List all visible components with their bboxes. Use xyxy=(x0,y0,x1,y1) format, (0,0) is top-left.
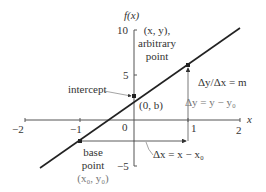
intercept-leader xyxy=(104,91,131,96)
linear-function-diagram: x −2 −1 0 1 2 f(x) 10 5 −5 (x, y), arbit… xyxy=(0,0,266,192)
arbitrary-point-label: arbitrary xyxy=(138,37,176,49)
arbitrary-point-coords: (x, y), xyxy=(144,24,171,37)
slope-formula: Δy/Δx = m xyxy=(198,76,247,88)
x-tick-minus1: −1 xyxy=(70,123,82,135)
x-axis-label: x xyxy=(246,113,252,125)
delta-y-formula: Δy = y − y₀ xyxy=(185,96,236,108)
base-point-marker xyxy=(78,139,82,143)
x-tick-minus2: −2 xyxy=(12,123,24,135)
base-point-label: base xyxy=(83,146,103,158)
x-tick-2: 2 xyxy=(236,124,242,136)
y-tick-5: 5 xyxy=(123,69,129,81)
x-tick-1: 1 xyxy=(191,122,197,134)
intercept-label: intercept xyxy=(68,83,106,95)
x-tick-0: 0 xyxy=(122,121,128,133)
intercept-point-marker xyxy=(132,94,136,98)
base-point-label-2: point xyxy=(82,159,105,171)
delta-x-formula: Δx = x − x₀ xyxy=(153,148,204,160)
arbitrary-point-label-2: point xyxy=(146,50,169,62)
y-tick-10: 10 xyxy=(117,24,129,36)
arbitrary-point-marker xyxy=(186,63,190,67)
delta-x-leader xyxy=(146,142,153,155)
y-axis-label: f(x) xyxy=(124,9,140,22)
y-tick-minus5: −5 xyxy=(117,160,129,172)
base-point-coords: (x₀, y₀) xyxy=(77,172,109,185)
intercept-coords: (0, b) xyxy=(139,99,163,112)
x-axis xyxy=(25,118,240,122)
